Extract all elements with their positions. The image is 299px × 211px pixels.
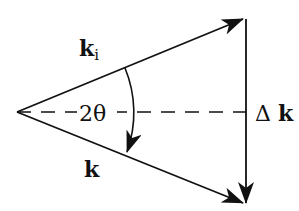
scattered-vector-arrow (17, 112, 243, 203)
incident-vector-arrow (17, 19, 243, 112)
angle-label: 2θ (79, 101, 106, 126)
scattered-vector-label: k (84, 156, 100, 182)
scattering-vector-diagram: ki 2θ k Δ k (0, 0, 299, 211)
momentum-transfer-label: Δ k (255, 100, 294, 126)
angle-arc-arrow (125, 68, 134, 152)
incident-vector-label: ki (79, 35, 99, 64)
